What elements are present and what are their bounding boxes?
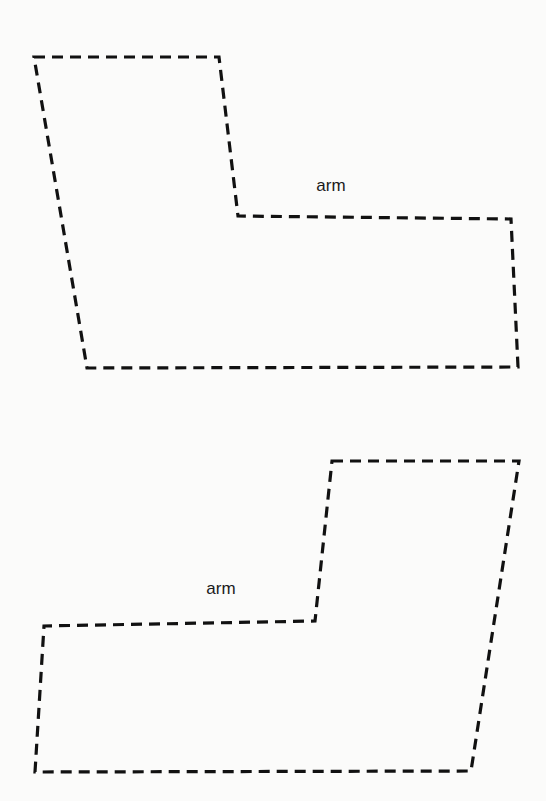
bottom-l-shape-outline	[35, 461, 519, 772]
top-l-shape-outline	[34, 57, 518, 368]
diagram-canvas	[0, 0, 546, 801]
top-shape-arm-label: arm	[316, 177, 345, 194]
bottom-shape-arm-label: arm	[206, 580, 235, 597]
